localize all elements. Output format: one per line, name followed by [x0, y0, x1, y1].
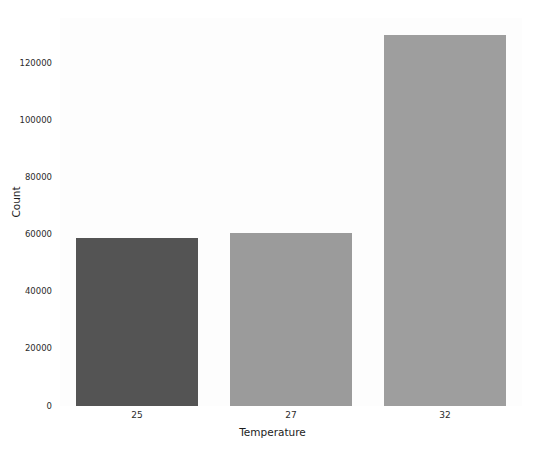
x-tick-label-32: 32 [405, 410, 485, 420]
bar-27 [230, 233, 352, 406]
bar-25 [76, 238, 198, 406]
bar-32 [384, 35, 506, 406]
x-tick-label-25: 25 [97, 410, 177, 420]
bar-chart-figure: 120000 100000 80000 60000 40000 20000 0 … [0, 0, 545, 458]
plot-area [60, 18, 522, 406]
x-tick-label-27: 27 [251, 410, 331, 420]
y-tick-label: 60000 [0, 230, 52, 239]
y-tick-label: 100000 [0, 116, 52, 125]
y-axis-label: Count [10, 172, 22, 232]
x-axis-label: Temperature [0, 426, 545, 438]
y-tick-label: 20000 [0, 344, 52, 353]
y-tick-label: 40000 [0, 287, 52, 296]
y-tick-label: 0 [0, 402, 52, 411]
y-tick-label: 120000 [0, 59, 52, 68]
y-tick-label: 80000 [0, 173, 52, 182]
